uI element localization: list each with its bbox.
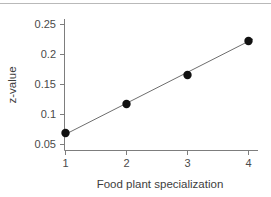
y-axis-ticks <box>60 25 65 145</box>
scatter-plot: 0.25 0.2 0.15 0.1 0.05 1 2 3 4 z-value F… <box>0 0 271 197</box>
x-axis-title: Food plant specialization <box>97 178 224 190</box>
x-tick-label: 2 <box>123 157 129 169</box>
y-tick-label: 0.15 <box>35 78 56 90</box>
trend-line <box>65 39 253 135</box>
y-tick-label: 0.1 <box>41 108 56 120</box>
x-tick-label: 3 <box>184 157 190 169</box>
data-point <box>61 129 69 137</box>
y-axis-title: z-value <box>6 66 18 103</box>
x-axis-ticks <box>66 151 249 156</box>
data-point <box>183 71 191 79</box>
data-point <box>244 37 252 45</box>
y-tick-label: 0.25 <box>35 18 56 30</box>
y-tick-label: 0.2 <box>41 48 56 60</box>
x-tick-label: 1 <box>62 157 68 169</box>
x-tick-label: 4 <box>245 157 251 169</box>
data-point <box>122 100 130 108</box>
figure-container: 0.25 0.2 0.15 0.1 0.05 1 2 3 4 z-value F… <box>0 0 271 197</box>
y-tick-label: 0.05 <box>35 138 56 150</box>
